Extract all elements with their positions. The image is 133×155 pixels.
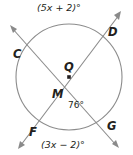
point-label-M: M	[52, 89, 63, 101]
center-label-Q: Q	[64, 62, 74, 74]
point-label-F: F	[29, 127, 37, 139]
arrowhead-F-side	[18, 141, 25, 149]
geometry-figure: C D F G Q M (5x + 2)° (3x − 2)° 76°	[0, 0, 133, 155]
center-point-dot-Q	[67, 75, 71, 79]
arrowhead-D-side	[114, 11, 121, 20]
point-label-C: C	[13, 49, 21, 61]
arc-label-bottom: (3x − 2)°	[41, 140, 85, 150]
point-label-D: D	[108, 27, 118, 39]
angle-label-76: 76°	[68, 101, 84, 110]
arc-label-top: (5x + 2)°	[37, 3, 81, 13]
point-label-G: G	[107, 121, 116, 133]
secant-line-CG	[12, 28, 116, 145]
